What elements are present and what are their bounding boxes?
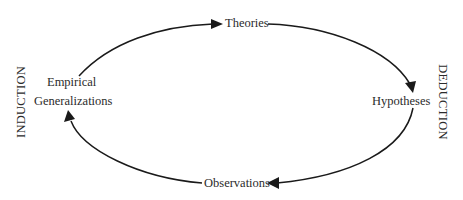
arrow-empirical-to-theories bbox=[79, 24, 213, 76]
side-label-deduction: DEDUCTION bbox=[437, 64, 450, 140]
node-empirical-line2: Generalizations bbox=[34, 95, 112, 108]
arrow-theories-to-hypotheses bbox=[268, 24, 410, 84]
arrowhead-empirical bbox=[64, 110, 75, 122]
arrowhead-theories bbox=[211, 19, 223, 29]
side-label-induction: INDUCTION bbox=[15, 66, 28, 138]
node-observations: Observations bbox=[204, 177, 270, 190]
node-empirical-line1: Empirical bbox=[47, 76, 96, 89]
node-theories: Theories bbox=[225, 17, 269, 30]
arrowhead-hypotheses bbox=[405, 81, 416, 93]
node-hypotheses: Hypotheses bbox=[372, 95, 430, 108]
research-cycle-diagram: Theories Hypotheses Observations Empiric… bbox=[0, 0, 463, 200]
arrow-observations-to-empirical bbox=[71, 121, 202, 183]
arrow-hypotheses-to-observations bbox=[277, 108, 413, 183]
